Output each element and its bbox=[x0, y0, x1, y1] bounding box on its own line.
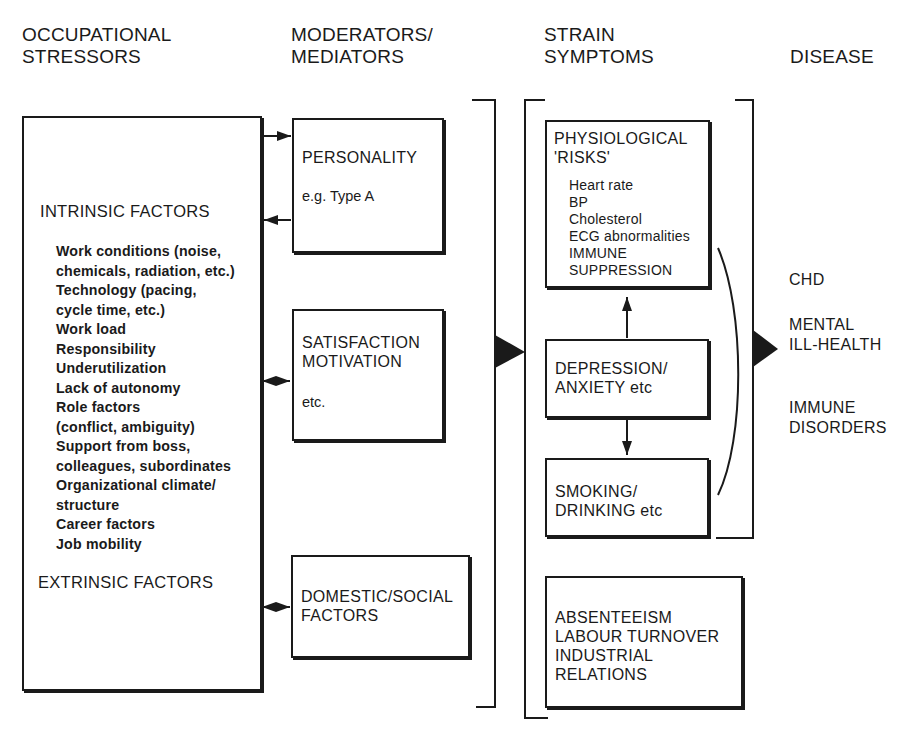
list-item: structure bbox=[56, 496, 235, 516]
disease-chd: CHD bbox=[789, 270, 825, 290]
disease-immune-disorders: IMMUNE DISORDERS bbox=[789, 398, 887, 438]
list-item: Cholesterol bbox=[569, 211, 690, 228]
physiological-title: PHYSIOLOGICAL 'RISKS' bbox=[554, 129, 688, 167]
list-item: Lack of autonomy bbox=[56, 379, 235, 399]
list-item: Role factors bbox=[56, 398, 235, 418]
depression-anxiety-box: DEPRESSION/ ANXIETY etc bbox=[545, 339, 709, 418]
extrinsic-factors-heading: EXTRINSIC FACTORS bbox=[38, 573, 213, 592]
triangle-arrow-to-strain bbox=[495, 335, 525, 368]
personality-title: PERSONALITY bbox=[302, 148, 417, 167]
list-item: Job mobility bbox=[56, 535, 235, 555]
smoking-drinking-box: SMOKING/ DRINKING etc bbox=[545, 458, 709, 537]
list-item: Organizational climate/ bbox=[56, 476, 235, 496]
physiological-list: Heart rate BP Cholesterol ECG abnormalit… bbox=[569, 177, 690, 279]
list-item: colleagues, subordinates bbox=[56, 457, 235, 477]
intrinsic-factors-list: Work conditions (noise, chemicals, radia… bbox=[56, 242, 235, 554]
depression-title: DEPRESSION/ ANXIETY etc bbox=[555, 359, 668, 397]
list-item: Underutilization bbox=[56, 359, 235, 379]
satisfaction-title: SATISFACTION MOTIVATION bbox=[302, 333, 420, 371]
list-item: IMMUNE bbox=[569, 245, 690, 262]
personality-detail: e.g. Type A bbox=[302, 187, 374, 207]
list-item: ECG abnormalities bbox=[569, 228, 690, 245]
smoking-title: SMOKING/ DRINKING etc bbox=[555, 482, 663, 520]
list-item: Responsibility bbox=[56, 340, 235, 360]
disease-mental-ill-health: MENTAL ILL-HEALTH bbox=[789, 315, 882, 355]
triangle-arrow-to-disease bbox=[753, 330, 778, 367]
absenteeism-box: ABSENTEEISM LABOUR TURNOVER INDUSTRIAL R… bbox=[545, 576, 743, 708]
list-item: Support from boss, bbox=[56, 437, 235, 457]
domestic-social-title: DOMESTIC/SOCIAL FACTORS bbox=[301, 587, 453, 625]
list-item: chemicals, radiation, etc.) bbox=[56, 262, 235, 282]
list-item: Career factors bbox=[56, 515, 235, 535]
list-item: Work conditions (noise, bbox=[56, 242, 235, 262]
list-item: Heart rate bbox=[569, 177, 690, 194]
list-item: BP bbox=[569, 194, 690, 211]
domestic-social-box: DOMESTIC/SOCIAL FACTORS bbox=[291, 555, 470, 658]
absenteeism-title: ABSENTEEISM LABOUR TURNOVER INDUSTRIAL R… bbox=[555, 608, 719, 684]
satisfaction-box: SATISFACTION MOTIVATION etc. bbox=[292, 309, 444, 441]
intrinsic-factors-heading: INTRINSIC FACTORS bbox=[40, 202, 210, 221]
satisfaction-detail: etc. bbox=[302, 393, 325, 413]
list-item: Technology (pacing, bbox=[56, 281, 235, 301]
list-item: Work load bbox=[56, 320, 235, 340]
personality-box: PERSONALITY e.g. Type A bbox=[292, 118, 444, 253]
list-item: cycle time, etc.) bbox=[56, 301, 235, 321]
physiological-risks-box: PHYSIOLOGICAL 'RISKS' Heart rate BP Chol… bbox=[545, 120, 710, 288]
list-item: (conflict, ambiguity) bbox=[56, 418, 235, 438]
list-item: SUPPRESSION bbox=[569, 262, 690, 279]
stressors-box: INTRINSIC FACTORS Work conditions (noise… bbox=[22, 116, 262, 691]
